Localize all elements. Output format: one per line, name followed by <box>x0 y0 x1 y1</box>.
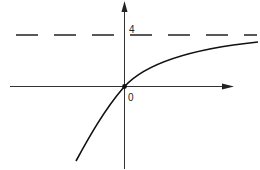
x-axis-arrow-icon <box>222 84 234 90</box>
exponential-curve <box>76 42 258 161</box>
origin-point <box>122 84 127 89</box>
y-axis-arrow-icon <box>122 1 128 12</box>
origin-label: 0 <box>128 93 134 103</box>
exponential-graph: 4 0 <box>0 0 260 170</box>
asymptote-label: 4 <box>129 25 135 35</box>
